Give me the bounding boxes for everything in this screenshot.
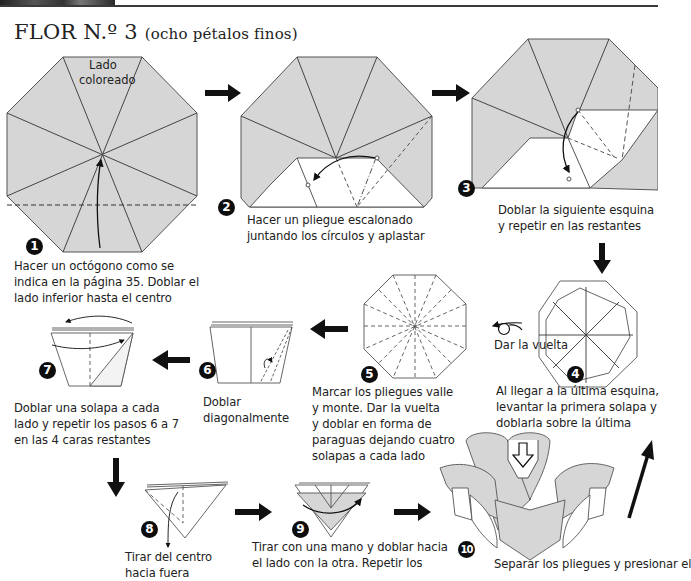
step-badge-7: 7 bbox=[39, 362, 56, 379]
label-line: Lado bbox=[79, 58, 127, 73]
step-badge-1: 1 bbox=[26, 238, 43, 255]
caption-line: diagonalmente bbox=[203, 410, 289, 426]
step4-caption: Al llegar a la última esquina, levantar … bbox=[496, 383, 659, 431]
step-badge-8: 8 bbox=[141, 521, 158, 538]
arrow-right-icon bbox=[394, 503, 431, 521]
caption-line: doblarla sobre la última bbox=[496, 415, 659, 431]
step8-diagram bbox=[145, 482, 228, 547]
step7-diagram bbox=[51, 316, 134, 386]
caption-line: juntando los círculos y aplastar bbox=[247, 228, 425, 244]
arrow-down-icon bbox=[107, 458, 125, 497]
caption-line: Al llegar a la última esquina, bbox=[496, 383, 659, 399]
caption-line: y repetir en las restantes bbox=[498, 218, 654, 234]
arrow-right-icon bbox=[205, 84, 241, 102]
caption-line: Hacer un octógono como se bbox=[14, 258, 199, 274]
step4-diagram bbox=[539, 281, 637, 387]
caption-line: Hacer un pliegue escalonado bbox=[247, 212, 425, 228]
caption-line: y doblar en forma de bbox=[312, 416, 455, 432]
step-badge-2: 2 bbox=[218, 199, 235, 216]
caption-line: solapas a cada lado bbox=[312, 448, 455, 464]
step-badge-5: 5 bbox=[361, 366, 378, 383]
step-badge-4: 4 bbox=[567, 366, 584, 383]
caption-line: Tirar con una mano y doblar hacia bbox=[252, 539, 448, 555]
step8-caption: Tirar del centro hacia fuera bbox=[125, 549, 212, 581]
caption-line: lado inferior hasta el centro bbox=[14, 290, 199, 306]
step10-caption: Separar los pliegues y presionar el bbox=[494, 556, 691, 572]
caption-line: Separar los pliegues y presionar el bbox=[494, 556, 691, 572]
caption-line: Doblar una solapa a cada bbox=[14, 400, 179, 416]
step6-diagram bbox=[210, 322, 293, 383]
turn-over-icon bbox=[493, 323, 522, 335]
caption-line: y monte. Dar la vuelta bbox=[312, 400, 455, 416]
arrow-right-icon bbox=[432, 84, 470, 102]
arrow-down-icon bbox=[593, 243, 611, 274]
caption-line: en las 4 caras restantes bbox=[14, 432, 179, 448]
step5-caption: Marcar los pliegues valle y monte. Dar l… bbox=[312, 384, 455, 464]
step7-caption: Doblar una solapa a cada lado y repetir … bbox=[14, 400, 179, 448]
arrow-right-icon bbox=[235, 503, 272, 521]
step1-caption: Hacer un octógono como se indica en la p… bbox=[14, 258, 199, 306]
caption-line: hacia fuera bbox=[125, 565, 212, 581]
caption-line: indica en la página 35. Doblar el bbox=[14, 274, 199, 290]
step1-colored-side-label: Lado coloreado bbox=[79, 58, 127, 88]
caption-line: Doblar bbox=[203, 394, 289, 410]
caption-line: levantar la primera solapa y bbox=[496, 399, 659, 415]
arrow-left-icon bbox=[152, 350, 190, 370]
step3-caption: Doblar la siguiente esquina y repetir en… bbox=[498, 202, 654, 234]
caption-line: el lado con la otra. Repetir los bbox=[252, 555, 448, 571]
caption-line: lado y repetir los pasos 6 a 7 bbox=[14, 416, 179, 432]
caption-line: Tirar del centro bbox=[125, 549, 212, 565]
step-badge-9: 9 bbox=[292, 521, 309, 538]
label-line: coloreado bbox=[79, 73, 127, 88]
step2-diagram bbox=[241, 57, 432, 207]
step-badge-3: 3 bbox=[458, 180, 475, 197]
caption-line: Doblar la siguiente esquina bbox=[498, 202, 654, 218]
step2-caption: Hacer un pliegue escalonado juntando los… bbox=[247, 212, 425, 244]
step9-caption: Tirar con una mano y doblar hacia el lad… bbox=[252, 539, 448, 571]
step5-diagram bbox=[364, 275, 466, 378]
step-badge-6: 6 bbox=[199, 362, 216, 379]
caption-line: paraguas dejando cuatro bbox=[312, 432, 455, 448]
step6-caption: Doblar diagonalmente bbox=[203, 394, 289, 426]
caption-line: Marcar los pliegues valle bbox=[312, 384, 455, 400]
arrow-up-diagonal-icon bbox=[629, 451, 649, 518]
turn-over-label: Dar la vuelta bbox=[494, 338, 568, 352]
step-badge-10: 10 bbox=[458, 541, 475, 558]
step3-diagram bbox=[472, 39, 658, 190]
arrow-left-icon bbox=[310, 319, 348, 339]
